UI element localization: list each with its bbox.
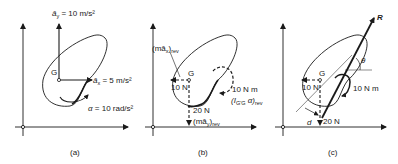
panel-b: G (māx)rev 10 N 20 N (māy)rev 10 N m (IG…	[145, 24, 263, 157]
label-may-rev: (māy)rev	[193, 117, 220, 127]
label-g-b: G	[188, 69, 194, 78]
panel-a: G āy = 10 m/s² āx = 5 m/s² α = 10 rad/s²…	[15, 9, 134, 157]
label-ay: āy = 10 m/s²	[52, 9, 95, 19]
label-alpha: α = 10 rad/s²	[88, 104, 134, 113]
distance-marker	[305, 108, 318, 115]
label-resultant: R	[377, 13, 383, 22]
panel-c: G R θ 10 N 20 N 10 N m d (c)	[275, 13, 386, 157]
label-moment-c: 10 N m	[353, 84, 379, 93]
label-g-a: G	[51, 68, 57, 77]
label-force-y-b: 20 N	[193, 106, 210, 115]
label-ax: āx = 5 m/s²	[93, 76, 132, 86]
label-g-c: G	[319, 69, 325, 78]
caption-c: (c)	[328, 148, 338, 157]
label-moment-expr: (IG'G α)rev	[231, 96, 263, 106]
alpha-arrow	[60, 95, 88, 102]
caption-a: (a)	[70, 148, 80, 157]
moment-arrow-b	[213, 67, 233, 93]
label-moment-b: 10 N m	[232, 85, 258, 94]
label-force-x-b: 10 N	[171, 83, 188, 92]
label-theta: θ	[361, 56, 366, 65]
center-of-mass-a	[57, 78, 60, 81]
figure-canvas: G āy = 10 m/s² āx = 5 m/s² α = 10 rad/s²…	[0, 0, 398, 164]
rigid-body-outline-b	[173, 35, 237, 106]
caption-b: (b)	[198, 148, 208, 157]
center-of-mass-c	[319, 79, 322, 82]
center-of-mass-b	[188, 79, 191, 82]
label-distance: d	[307, 118, 312, 127]
label-force-x-c: 10 N	[302, 83, 319, 92]
label-force-y-c: 20 N	[323, 117, 340, 126]
label-max-rev: (māx)rev	[152, 44, 179, 54]
resultant-arrow	[322, 18, 374, 118]
